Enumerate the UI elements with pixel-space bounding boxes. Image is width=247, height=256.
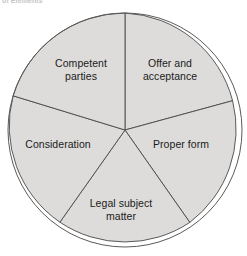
figure-page: of Elements Competent parties Offer and … [0,0,247,256]
pie-label-offer-and-acceptance: Offer and acceptance [132,57,208,82]
pie-label-competent-parties: Competent parties [44,57,118,82]
pie-label-proper-form: Proper form [145,138,217,151]
pie-label-consideration: Consideration [14,138,102,151]
pie-label-legal-subject-matter: Legal subject matter [80,197,162,222]
pie-chart: Competent parties Offer and acceptance C… [0,0,247,256]
